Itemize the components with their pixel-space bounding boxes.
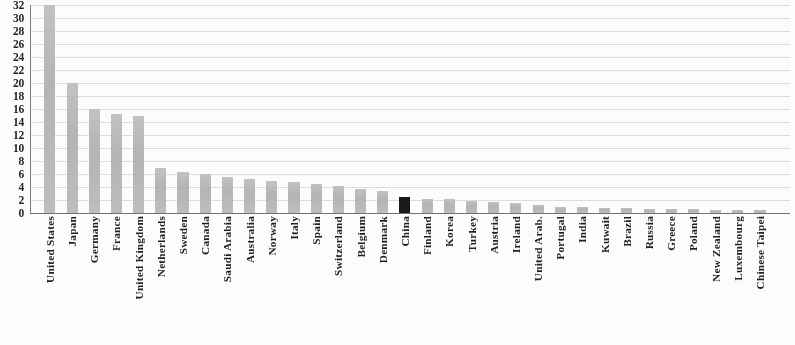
x-tick-label: Finland <box>421 216 433 255</box>
x-tick-label: Japan <box>66 216 78 247</box>
bar <box>688 209 699 213</box>
x-tick-label: Poland <box>687 216 699 251</box>
x-tick-label: Italy <box>288 216 300 240</box>
bar <box>111 114 122 213</box>
x-tick-label: Ireland <box>510 216 522 253</box>
x-tick-label: Brazil <box>621 216 633 247</box>
bar <box>288 182 299 213</box>
y-tick-label: 18 <box>13 91 24 102</box>
bar <box>577 207 588 213</box>
y-tick-label: 32 <box>13 0 24 11</box>
x-tick-label: Belgium <box>355 216 367 258</box>
x-tick-label: Russia <box>643 216 655 249</box>
bar <box>244 179 255 213</box>
x-tick-label: United Arab. <box>532 216 544 281</box>
bar <box>644 209 655 213</box>
x-tick-label: Saudi Arabia <box>221 216 233 282</box>
bar <box>710 210 721 213</box>
bar <box>133 116 144 214</box>
bar <box>355 189 366 213</box>
x-tick-label: Austria <box>488 216 500 254</box>
x-tick-label: New Zealand <box>710 216 722 282</box>
x-tick-label: United States <box>44 216 56 283</box>
bar <box>200 174 211 213</box>
bar <box>155 168 166 214</box>
x-tick-label: Germany <box>88 216 100 263</box>
y-tick-label: 6 <box>19 169 24 180</box>
y-tick-label: 14 <box>13 117 24 128</box>
bar <box>67 83 78 213</box>
y-tick-label: 12 <box>13 130 24 141</box>
bar <box>533 205 544 213</box>
y-tick-label: 24 <box>13 52 24 63</box>
y-tick-label: 20 <box>13 78 24 89</box>
x-tick-label: China <box>399 216 411 247</box>
x-tick-label: Norway <box>266 216 278 255</box>
y-tick-label: 10 <box>13 143 24 154</box>
x-tick-label: Sweden <box>177 216 189 254</box>
bar <box>754 210 765 213</box>
x-tick-label: Canada <box>199 216 211 255</box>
bar <box>89 109 100 213</box>
y-tick-label: 26 <box>13 39 24 50</box>
bar <box>399 197 410 213</box>
y-tick-label: 30 <box>13 13 24 24</box>
y-tick-label: 8 <box>19 156 24 167</box>
x-tick-label: Denmark <box>377 216 389 263</box>
x-tick-label: Chinese Taipei <box>754 216 766 289</box>
bar <box>44 5 55 213</box>
x-tick-label: Korea <box>443 216 455 247</box>
bar <box>466 201 477 213</box>
bar <box>333 186 344 213</box>
bar <box>510 203 521 213</box>
bar <box>266 181 277 213</box>
y-tick-label: 4 <box>19 182 24 193</box>
x-tick-label: Australia <box>244 216 256 263</box>
plot-area <box>31 5 790 213</box>
x-tick-label: Greece <box>665 216 677 251</box>
x-tick-label: United Kingdom <box>133 216 145 299</box>
bar <box>311 184 322 213</box>
x-tick-label: Switzerland <box>332 216 344 276</box>
bar <box>422 199 433 213</box>
bar <box>177 172 188 213</box>
y-tick-label: 0 <box>19 208 24 219</box>
bar <box>377 191 388 213</box>
bar-chart: 02468101214161820222426283032 United Sta… <box>0 0 795 345</box>
x-tick-label: Turkey <box>466 216 478 252</box>
x-axis: United StatesJapanGermanyFranceUnited Ki… <box>31 216 795 345</box>
bar <box>732 210 743 213</box>
y-tick-label: 22 <box>13 65 24 76</box>
x-tick-label: Kuwait <box>599 216 611 253</box>
y-tick-label: 16 <box>13 104 24 115</box>
bar <box>222 177 233 213</box>
y-tick-label: 28 <box>13 26 24 37</box>
x-tick-label: France <box>110 216 122 251</box>
x-tick-label: India <box>576 216 588 243</box>
x-tick-label: Luxembourg <box>732 216 744 281</box>
bar <box>666 209 677 213</box>
y-tick-label: 2 <box>19 195 24 206</box>
y-axis: 02468101214161820222426283032 <box>0 0 26 220</box>
x-tick-label: Netherlands <box>155 216 167 277</box>
x-axis-line <box>30 213 790 214</box>
x-tick-label: Portugal <box>554 216 566 260</box>
bar <box>444 199 455 213</box>
x-tick-label: Spain <box>310 216 322 245</box>
bar <box>599 208 610 213</box>
bar <box>555 207 566 213</box>
bar <box>488 202 499 213</box>
bar <box>621 208 632 213</box>
